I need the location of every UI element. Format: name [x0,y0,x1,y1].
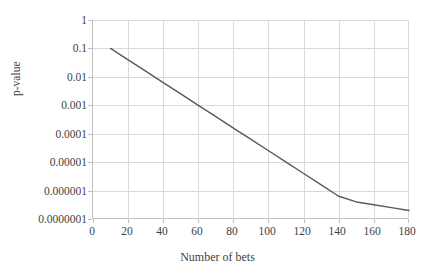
x-axis-title: Number of bets [0,250,435,265]
x-tick-mark [198,219,199,223]
y-tick-label: 0.01 [0,71,87,83]
x-tick-mark [93,219,94,223]
x-tick-mark [304,219,305,223]
x-tick-mark [128,219,129,223]
y-tick-mark [88,219,92,220]
y-tick-label: 1 [0,14,87,26]
y-tick-label: 0.0001 [0,128,87,140]
x-tick-mark [163,219,164,223]
y-tick-label: 0.000001 [0,185,87,197]
y-tick-label: 0.00001 [0,156,87,168]
plot-area [92,20,408,219]
data-line-p-value [111,48,409,210]
x-tick-mark [233,219,234,223]
x-tick-mark [374,219,375,223]
y-tick-label: 0.0000001 [0,213,87,225]
x-tick-mark [339,219,340,223]
data-series-plot [93,20,409,219]
y-tick-label: 0.1 [0,42,87,54]
y-tick-label: 0.001 [0,99,87,111]
x-tick-label: 180 [377,225,435,237]
x-tick-mark [408,219,409,223]
chart-container: p-value 1 0.1 0.01 0.001 0.0001 0.00001 … [0,0,435,279]
x-tick-mark [268,219,269,223]
